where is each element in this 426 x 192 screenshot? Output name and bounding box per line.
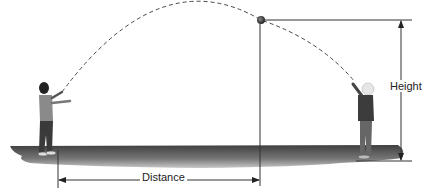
ground xyxy=(10,145,403,168)
trajectory-arc xyxy=(62,1,355,92)
height-label: Height xyxy=(388,80,424,92)
ball xyxy=(257,16,265,24)
projectile-diagram xyxy=(0,0,426,192)
thrower-child xyxy=(38,82,70,156)
distance-label: Distance xyxy=(140,171,187,183)
